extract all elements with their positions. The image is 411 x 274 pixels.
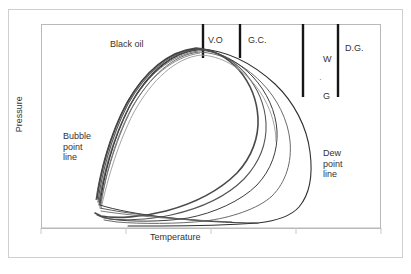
y-axis-label: Pressure: [14, 79, 25, 149]
label-wet-gas-dot: .: [314, 75, 327, 81]
label-dry-gas: D.G.: [345, 43, 364, 54]
label-wet-gas: W . G: [313, 43, 327, 112]
label-volatile-oil: V.O: [208, 35, 223, 46]
label-wet-gas-top: W: [323, 54, 332, 64]
label-wet-gas-bottom: G: [323, 91, 330, 101]
label-gas-condensate: G.C.: [248, 35, 267, 46]
label-black-oil: Black oil: [110, 39, 144, 50]
label-dew-point-line: Dew point line: [323, 148, 343, 180]
label-bubble-point-line: Bubble point line: [63, 131, 91, 163]
phase-diagram-figure: Pressure Temperature Black oil V.O G.C. …: [0, 0, 411, 274]
x-axis-label: Temperature: [150, 232, 201, 243]
